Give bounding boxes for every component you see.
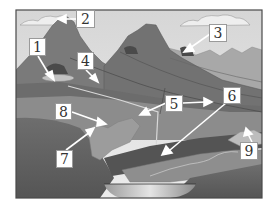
label-4: 4 — [77, 52, 94, 70]
label-8: 8 — [55, 103, 72, 120]
landscape-diagram — [0, 0, 274, 209]
label-1: 1 — [29, 38, 46, 56]
label-9: 9 — [240, 142, 258, 160]
label-2: 2 — [76, 10, 95, 28]
label-3: 3 — [209, 24, 227, 42]
label-7: 7 — [56, 150, 73, 168]
label-5: 5 — [165, 95, 183, 112]
label-6: 6 — [223, 87, 241, 104]
